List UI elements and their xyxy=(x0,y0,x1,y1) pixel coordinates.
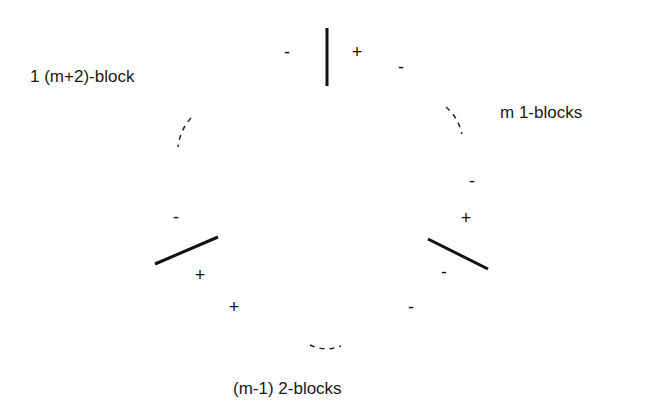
label-m-1-blocks: m 1-blocks xyxy=(500,103,582,123)
left-slanted-line xyxy=(155,237,218,264)
sign-top-far-right-minus: - xyxy=(398,58,404,76)
sign-right-lower-minus: - xyxy=(441,263,447,281)
label-m-minus-1-2-blocks: (m-1) 2-blocks xyxy=(233,379,342,399)
sign-bottom-right-minus: - xyxy=(408,298,414,316)
diagram-canvas: 1 (m+2)-block m 1-blocks (m-1) 2-blocks … xyxy=(0,0,654,416)
diagram-svg xyxy=(0,0,654,416)
right-slanted-line xyxy=(428,239,488,269)
sign-right-plus: + xyxy=(461,209,472,227)
label-m-plus-2-block: 1 (m+2)-block xyxy=(30,67,134,87)
bottom-dashed-arc xyxy=(310,345,341,349)
upper-right-dashed-arc xyxy=(446,107,462,134)
sign-top-left-minus: - xyxy=(284,43,290,61)
sign-right-upper-minus: - xyxy=(469,172,475,190)
sign-left-minus: - xyxy=(173,208,179,226)
sign-top-right-plus: + xyxy=(352,43,363,61)
sign-left-plus: + xyxy=(195,266,206,284)
sign-bottom-left-plus: + xyxy=(229,298,240,316)
upper-left-dashed-arc xyxy=(178,118,191,147)
